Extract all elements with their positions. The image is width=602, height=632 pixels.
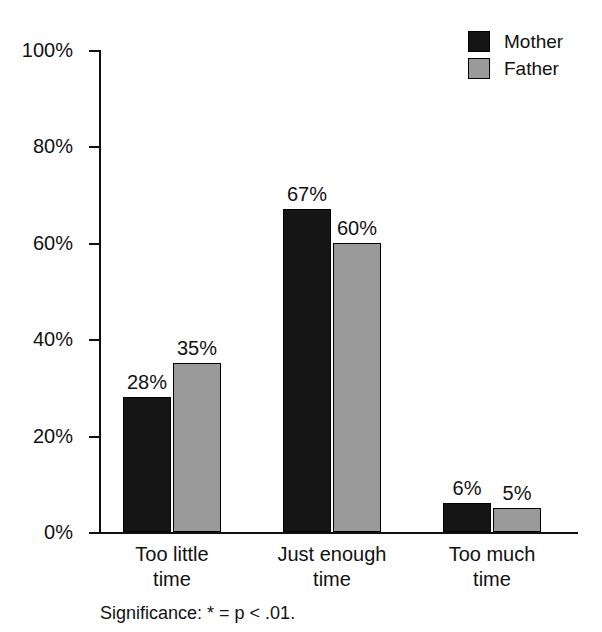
x-label-just-enough-time-line2: time <box>262 567 402 592</box>
x-label-too-much-time: Too much time <box>422 542 562 592</box>
y-tick-20: 20% <box>89 436 99 438</box>
y-tick-40: 40% <box>89 339 99 341</box>
bar-father-too-much-time: 5% <box>493 508 541 532</box>
bar-value-father-just-enough-time: 60% <box>337 217 377 239</box>
bar-father-too-little-time: 35% <box>173 363 221 532</box>
bar-value-mother-too-much-time: 6% <box>453 477 482 499</box>
x-label-too-little-time-line2: time <box>102 567 242 592</box>
bar-value-father-too-much-time: 5% <box>503 482 532 504</box>
x-label-too-little-time: Too little time <box>102 542 242 592</box>
bar-father-just-enough-time: 60% <box>333 243 381 532</box>
bar-value-mother-too-little-time: 28% <box>127 371 167 393</box>
legend-swatch-mother-icon <box>468 31 490 52</box>
y-tick-label-20: 20% <box>33 424 73 447</box>
bar-mother-just-enough-time: 67% <box>283 209 331 532</box>
x-axis-line <box>99 532 578 534</box>
x-label-just-enough-time: Just enough time <box>262 542 402 592</box>
bar-value-father-too-little-time: 35% <box>177 337 217 359</box>
x-label-just-enough-time-line1: Just enough <box>262 542 402 567</box>
x-axis-category-labels: Too little time Just enough time Too muc… <box>99 542 578 606</box>
bars-layer: 28% 35% 67% 60% 6% 5% <box>99 50 578 532</box>
bar-mother-too-little-time: 28% <box>123 397 171 532</box>
y-tick-label-80: 80% <box>33 135 73 158</box>
legend-label-mother: Mother <box>504 31 563 52</box>
y-tick-label-60: 60% <box>33 231 73 254</box>
y-tick-100: 100% <box>89 50 99 52</box>
significance-footnote: Significance: * = p < .01. <box>100 602 295 624</box>
x-label-too-little-time-line1: Too little <box>102 542 242 567</box>
bar-value-mother-just-enough-time: 67% <box>287 183 327 205</box>
y-tick-label-0: 0% <box>44 521 73 544</box>
y-tick-80: 80% <box>89 146 99 148</box>
bar-chart: Mother Father 100% 80% 60% 40% 20% 0% <box>0 0 602 632</box>
x-label-too-much-time-line1: Too much <box>422 542 562 567</box>
y-tick-label-100: 100% <box>22 39 73 62</box>
y-tick-0: 0% <box>89 532 99 534</box>
y-tick-label-40: 40% <box>33 328 73 351</box>
bar-mother-too-much-time: 6% <box>443 503 491 532</box>
x-label-too-much-time-line2: time <box>422 567 562 592</box>
y-tick-60: 60% <box>89 243 99 245</box>
plot-area: 100% 80% 60% 40% 20% 0% 28% 35% <box>99 50 578 532</box>
